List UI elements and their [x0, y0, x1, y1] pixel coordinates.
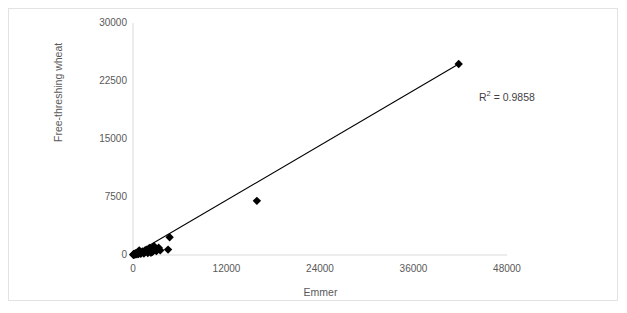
- chart-figure: 07500150002250030000 0120002400036000480…: [0, 0, 627, 313]
- r-squared-base: R: [479, 91, 487, 103]
- y-axis-title: Free-threshing wheat: [52, 0, 66, 50]
- x-tick-label: 0: [103, 263, 163, 275]
- trendline: [135, 64, 459, 254]
- data-point-marker: [164, 245, 172, 253]
- x-tick-label: 36000: [384, 263, 444, 275]
- y-axis-title-text: Free-threshing wheat: [52, 43, 64, 142]
- y-tick-label: 15000: [81, 133, 127, 145]
- r-squared-annotation: R2 = 0.9858: [479, 89, 535, 103]
- data-point-marker: [165, 233, 173, 241]
- x-axis-title: Emmer: [0, 286, 627, 298]
- y-tick-label: 7500: [81, 191, 127, 203]
- axis-lines: [133, 23, 507, 255]
- data-point-marker: [454, 60, 462, 68]
- x-tick-label: 12000: [197, 263, 257, 275]
- r-squared-value: = 0.9858: [491, 91, 535, 103]
- y-tick-label: 22500: [81, 75, 127, 87]
- x-tick-label: 24000: [290, 263, 350, 275]
- trendline-path: [135, 64, 459, 254]
- x-tick-label: 48000: [477, 263, 537, 275]
- y-tick-label: 30000: [81, 17, 127, 29]
- data-point-marker: [253, 197, 261, 205]
- x-axis-title-text: Emmer: [304, 286, 338, 298]
- y-tick-label: 0: [81, 249, 127, 261]
